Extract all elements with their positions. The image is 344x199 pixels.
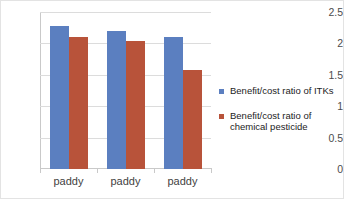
bar[interactable] <box>50 26 69 169</box>
y-axis-tick-label: 0 <box>309 164 343 174</box>
x-axis-tick <box>40 168 41 173</box>
legend-entry[interactable]: Benefit/cost ratio of chemical pesticide <box>219 110 343 133</box>
x-axis-tick <box>97 168 98 173</box>
gridline <box>40 12 211 13</box>
x-axis-category-label: paddy <box>154 175 212 188</box>
x-axis-tick <box>211 168 212 173</box>
y-axis-tick-label: 2 <box>309 38 343 48</box>
bar-chart: 00.511.522.5 paddypaddypaddy Benefit/cos… <box>0 0 344 199</box>
x-axis-category-label: paddy <box>40 175 98 188</box>
bar[interactable] <box>183 70 202 169</box>
legend-entry[interactable]: Benefit/cost ratio of ITKs <box>219 85 343 97</box>
bar[interactable] <box>69 37 88 169</box>
legend-swatch-icon <box>219 114 224 119</box>
legend-label: Benefit/cost ratio of ITKs <box>230 85 334 97</box>
bar[interactable] <box>107 31 126 169</box>
bar[interactable] <box>164 37 183 170</box>
x-axis-tick <box>154 168 155 173</box>
y-axis-tick-label: 2.5 <box>309 7 343 17</box>
legend: Benefit/cost ratio of ITKsBenefit/cost r… <box>219 85 343 146</box>
legend-label: Benefit/cost ratio of chemical pesticide <box>230 110 311 133</box>
y-axis-tick-label: 1.5 <box>309 70 343 80</box>
bar[interactable] <box>126 41 145 169</box>
legend-swatch-icon <box>219 89 224 94</box>
plot-area <box>40 12 211 169</box>
x-axis-category-label: paddy <box>97 175 155 188</box>
